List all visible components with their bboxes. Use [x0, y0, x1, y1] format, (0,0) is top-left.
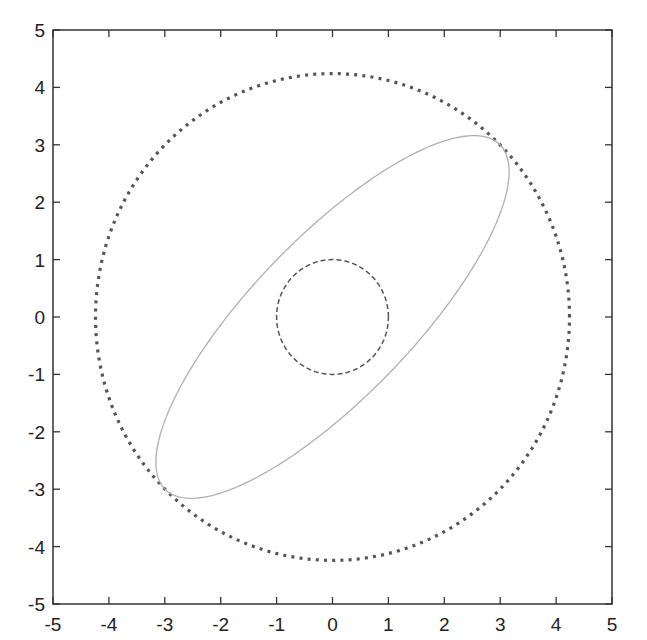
- y-tick-label: 0: [34, 307, 45, 328]
- y-tick-label: -2: [28, 422, 45, 443]
- y-tick-label: -5: [28, 594, 45, 615]
- x-tick-label: -3: [156, 614, 173, 635]
- y-tick-label: 2: [34, 192, 45, 213]
- y-tick-label: 3: [34, 135, 45, 156]
- outer-circle-line: [95, 74, 569, 561]
- x-tick-label: 0: [327, 614, 338, 635]
- y-tick-label: -1: [28, 364, 45, 385]
- x-tick-label: 4: [551, 614, 562, 635]
- chart: -5 -4 -3 -2 -1 0 1 2 3 4 5 5 4 3 2 1 0 -…: [0, 0, 647, 640]
- y-tick-label: 5: [34, 20, 45, 41]
- x-tick-label: 5: [607, 614, 618, 635]
- y-tick-label: 4: [34, 77, 45, 98]
- x-tick-label: 3: [495, 614, 506, 635]
- x-tick-label: -2: [212, 614, 229, 635]
- y-tick-label: -3: [28, 479, 45, 500]
- axes-frame: [53, 30, 612, 604]
- x-tick-label: -5: [45, 614, 62, 635]
- x-tick-label: 2: [439, 614, 450, 635]
- x-tick-label: 1: [383, 614, 394, 635]
- y-axis-tick-labels: 5 4 3 2 1 0 -1 -2 -3 -4 -5: [28, 20, 45, 615]
- y-tick-label: -4: [28, 537, 45, 558]
- y-tick-label: 1: [34, 250, 45, 271]
- x-tick-label: -4: [100, 614, 117, 635]
- ellipse-line: [156, 136, 509, 499]
- inner-circle-line: [277, 260, 389, 375]
- x-axis-tick-labels: -5 -4 -3 -2 -1 0 1 2 3 4 5: [45, 614, 618, 635]
- x-tick-label: -1: [268, 614, 285, 635]
- plot-area: [53, 30, 612, 604]
